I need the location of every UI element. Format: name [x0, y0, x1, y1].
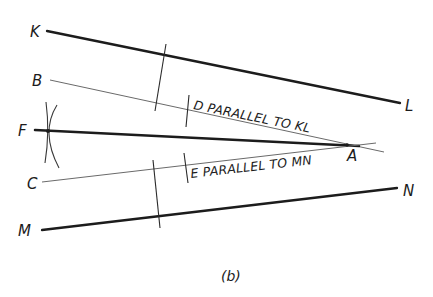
- label-m: M: [18, 222, 31, 240]
- label-n: N: [403, 182, 414, 200]
- label-k: K: [30, 23, 41, 41]
- label-f: F: [18, 122, 27, 140]
- tick-d: [186, 95, 189, 127]
- label-a: A: [346, 147, 357, 165]
- construction-diagram: K L B F C M N A D PARALLEL TO KL E PARAL…: [0, 0, 433, 297]
- line-mn: [42, 188, 397, 230]
- note-d-parallel-kl: D PARALLEL TO KL: [192, 97, 311, 135]
- figure-caption: (b): [221, 268, 241, 284]
- compass-arc-2: [49, 105, 59, 168]
- note-e-parallel-mn: E PARALLEL TO MN: [190, 152, 313, 181]
- label-l: L: [405, 97, 413, 115]
- line-kl: [47, 31, 400, 103]
- line-fa: [35, 130, 359, 146]
- tick-e: [184, 153, 188, 183]
- label-c: C: [27, 175, 38, 193]
- label-b: B: [32, 72, 42, 90]
- point-f-dot: [46, 129, 50, 133]
